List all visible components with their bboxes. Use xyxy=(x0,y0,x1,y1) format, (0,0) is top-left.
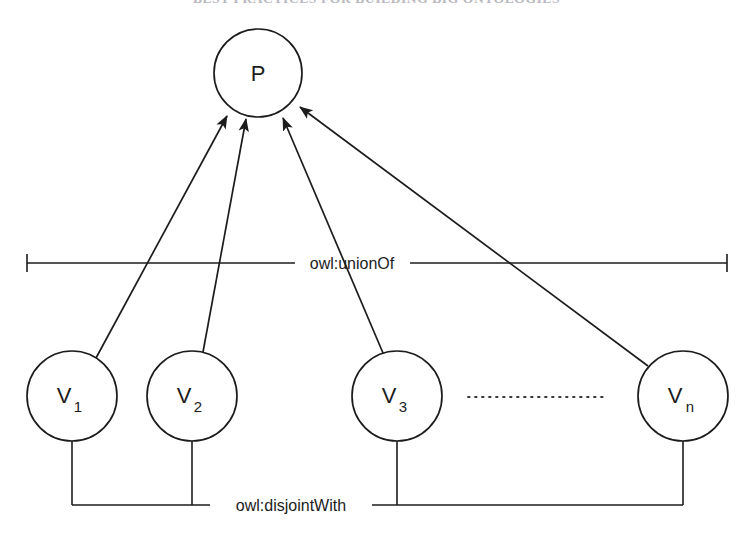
owl-disjointwith-relation: owl:disjointWith xyxy=(72,441,683,514)
arrow-v2-to-p xyxy=(203,119,246,352)
owl-union-disjoint-diagram: owl:unionOf P V 1 V 2 V 3 xyxy=(0,0,753,544)
node-V2-subscript: 2 xyxy=(194,398,202,415)
node-Vn-label: V xyxy=(668,383,683,408)
diagram-canvas: BEST PRACTICES FOR BUILDING BIG ONTOLOGI… xyxy=(0,0,753,544)
node-P[interactable]: P xyxy=(214,29,302,117)
node-V1-label: V xyxy=(57,383,72,408)
node-Vn[interactable]: V n xyxy=(638,351,728,441)
arrow-v1-to-p xyxy=(96,116,227,358)
node-Vn-subscript: n xyxy=(686,398,694,415)
node-V2-circle[interactable] xyxy=(147,351,237,441)
node-V3-subscript: 3 xyxy=(399,398,407,415)
union-member-arrows xyxy=(96,107,648,366)
node-V2-label: V xyxy=(177,383,192,408)
arrow-v3-to-p xyxy=(283,118,383,353)
node-V1-subscript: 1 xyxy=(74,398,82,415)
node-Vn-circle[interactable] xyxy=(638,351,728,441)
node-P-label: P xyxy=(251,61,266,86)
node-V3-circle[interactable] xyxy=(352,351,442,441)
node-V1[interactable]: V 1 xyxy=(27,351,117,441)
node-V3-label: V xyxy=(382,383,397,408)
node-V2[interactable]: V 2 xyxy=(147,351,237,441)
node-V1-circle[interactable] xyxy=(27,351,117,441)
arrow-vn-to-p xyxy=(300,107,648,366)
node-V3[interactable]: V 3 xyxy=(352,351,442,441)
disjointwith-label: owl:disjointWith xyxy=(236,497,346,514)
unionof-label: owl:unionOf xyxy=(310,255,395,272)
owl-unionof-relation: owl:unionOf xyxy=(27,254,727,272)
